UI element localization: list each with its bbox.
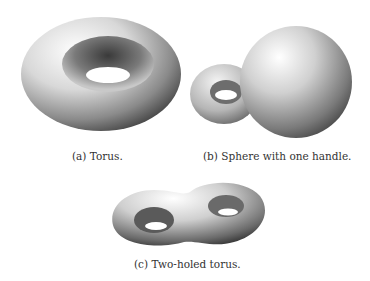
sphere-with-handle-image [188,24,354,140]
caption-b: (b) Sphere with one handle. [203,150,351,162]
torus-figure [18,12,184,134]
caption-c: (c) Two-holed torus. [134,258,241,270]
two-holed-torus-image [104,176,268,252]
caption-a: (a) Torus. [72,150,123,162]
sphere-with-handle-figure [188,24,354,140]
torus-image [18,12,184,134]
two-holed-torus-figure [104,176,268,252]
